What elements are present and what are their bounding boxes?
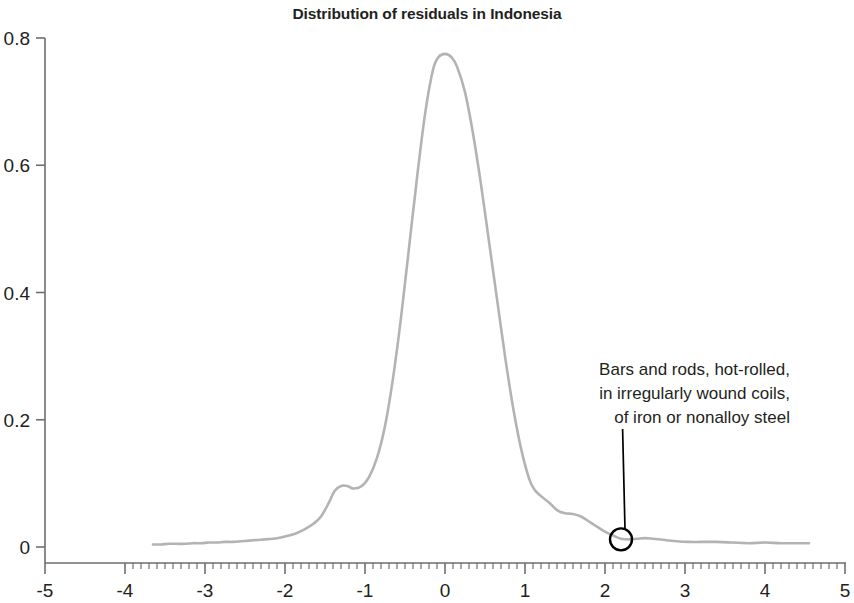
chart-container: Distribution of residuals in Indonesia 0… bbox=[0, 0, 854, 603]
chart-annotation: Bars and rods, hot-rolled,in irregularly… bbox=[599, 360, 790, 550]
x-axis-tick-label: 4 bbox=[760, 580, 771, 601]
density-curve bbox=[153, 54, 809, 545]
chart-series bbox=[153, 54, 809, 545]
y-axis-tick-label: 0.6 bbox=[4, 155, 30, 176]
x-axis-tick-label: -1 bbox=[357, 580, 374, 601]
x-axis-tick-label: 5 bbox=[840, 580, 851, 601]
chart-plot-area: 00.20.40.60.8-5-4-3-2-1012345 Bars and r… bbox=[0, 0, 854, 603]
x-axis-tick-label: -5 bbox=[37, 580, 54, 601]
x-axis-tick-label: 1 bbox=[520, 580, 531, 601]
annotation-text-line: in irregularly wound coils, bbox=[599, 384, 790, 403]
chart-axes bbox=[36, 38, 846, 574]
annotation-text-line: Bars and rods, hot-rolled, bbox=[599, 360, 790, 379]
x-axis-tick-label: 2 bbox=[600, 580, 611, 601]
y-axis-tick-label: 0.4 bbox=[4, 283, 31, 304]
x-axis-tick-label: -4 bbox=[117, 580, 134, 601]
annotation-text-line: of iron or nonalloy steel bbox=[614, 408, 790, 427]
x-axis-tick-label: 0 bbox=[440, 580, 451, 601]
x-axis-tick-label: -2 bbox=[277, 580, 294, 601]
annotation-leader-line bbox=[623, 429, 625, 529]
x-axis-tick-label: 3 bbox=[680, 580, 691, 601]
y-axis-tick-label: 0 bbox=[19, 537, 30, 558]
y-axis-tick-label: 0.8 bbox=[4, 28, 30, 49]
chart-tick-labels: 00.20.40.60.8-5-4-3-2-1012345 bbox=[4, 28, 851, 601]
y-axis-tick-label: 0.2 bbox=[4, 410, 30, 431]
x-axis-tick-label: -3 bbox=[197, 580, 214, 601]
